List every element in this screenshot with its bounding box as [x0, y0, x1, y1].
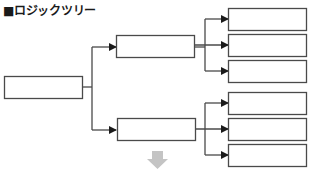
- branch-node-1: [117, 36, 195, 58]
- leaf-node-2-1: [229, 93, 307, 115]
- leaf-node-1-3: [229, 61, 307, 83]
- leaf-node-2-2: [229, 119, 307, 141]
- root-connectors: [83, 47, 117, 130]
- leaf-node-1-2: [229, 35, 307, 57]
- leaf-node-2-3: [229, 145, 307, 167]
- branch-1-connectors: [195, 19, 229, 71]
- logic-tree-diagram: [0, 0, 311, 173]
- root-node: [5, 77, 83, 99]
- leaf-node-1-1: [229, 9, 307, 31]
- branch-2-connectors: [196, 103, 229, 155]
- branch-node-2: [118, 119, 196, 141]
- down-arrow-icon: [147, 151, 168, 169]
